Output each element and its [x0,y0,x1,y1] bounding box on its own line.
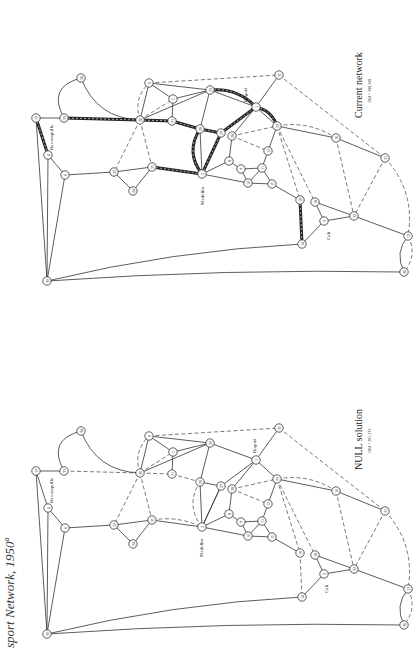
svg-text:34: 34 [79,76,84,80]
network-node-8: 8 [225,510,233,518]
svg-text:5: 5 [171,451,176,453]
network-node-10: 10 [244,179,252,187]
network-edge [114,120,140,172]
network-node-35: 35 [275,424,283,432]
svg-text:25: 25 [150,165,155,169]
network-edge [140,473,152,520]
svg-text:30: 30 [45,279,50,283]
network-node-3: 3 [320,217,328,225]
network-node-23: 23 [273,122,281,130]
network-node-4: 4 [44,151,52,159]
network-edge [202,133,221,174]
network-edge [200,90,210,129]
svg-text:4: 4 [46,507,51,509]
svg-text:1: 1 [254,459,259,461]
network-node-17: 17 [32,467,40,475]
svg-text:32: 32 [352,567,357,571]
network-node-11: 11 [258,517,266,525]
svg-text:19: 19 [298,198,303,202]
network-edge [221,460,256,486]
network-node-4: 4 [44,504,52,512]
network-node-25: 25 [148,516,156,524]
network-edge [114,473,140,525]
network-edge [36,471,47,634]
svg-text:23: 23 [275,124,280,128]
network-edge [272,537,300,553]
network-edge [140,473,172,474]
network-edge [81,78,140,120]
svg-text:15: 15 [270,535,275,539]
svg-text:7: 7 [239,168,244,170]
svg-text:24: 24 [131,189,136,193]
network-node-18: 18 [311,551,319,559]
svg-text:34: 34 [79,429,84,433]
svg-text:36: 36 [402,270,407,274]
svg-text:16: 16 [334,136,339,140]
svg-text:3: 3 [322,220,327,222]
objective-value: OBJ = 388,348 [367,79,373,103]
city-label-bogota: Bogotá [252,438,257,453]
network-node-28: 28 [228,485,236,493]
svg-text:4: 4 [46,154,51,156]
network-edge [336,491,385,511]
network-node-26: 26 [136,469,144,477]
network-node-32: 32 [350,565,358,573]
network-node-9: 9 [145,432,153,440]
svg-text:25: 25 [150,518,155,522]
network-node-24: 24 [129,187,137,195]
svg-text:17: 17 [34,116,39,120]
city-label-cali: Cali [326,231,331,240]
network-edge [302,221,324,244]
network-node-14: 14 [298,593,306,601]
network-edge [65,172,114,175]
network-edge [140,120,152,167]
network-node-16: 16 [332,134,340,142]
svg-text:18: 18 [313,200,318,204]
svg-text:17: 17 [34,469,39,473]
network-edge [272,184,300,200]
network-node-3: 3 [320,570,328,578]
network-node-18: 18 [311,198,319,206]
city-label-bogota: Bogotá [243,87,248,102]
network-node-9: 9 [145,79,153,87]
svg-text:20: 20 [208,441,213,445]
svg-text:28: 28 [230,487,235,491]
network-node-12: 12 [264,500,272,508]
svg-text:6: 6 [63,174,68,176]
svg-text:24: 24 [131,542,136,546]
network-edge [200,443,210,482]
network-edge [149,75,279,83]
network-diagram-current: 1746303334222425952126202927281287111015… [0,0,419,325]
svg-text:35: 35 [277,73,282,77]
svg-text:30: 30 [45,632,50,636]
svg-text:21: 21 [170,472,175,476]
network-edge [202,527,248,536]
network-node-36: 36 [400,621,408,629]
network-edge [47,271,404,281]
svg-text:26: 26 [138,118,143,122]
network-node-20: 20 [206,86,214,94]
network-node-36: 36 [400,268,408,276]
network-node-34: 34 [77,427,85,435]
svg-text:16: 16 [334,489,339,493]
network-node-19: 19 [296,549,304,557]
network-edge [114,520,152,525]
network-node-31: 31 [381,507,389,515]
svg-text:9: 9 [147,435,152,437]
network-edge [47,528,65,634]
network-node-21: 21 [168,470,176,478]
network-node-30: 30 [43,630,51,638]
network-node-29: 29 [196,125,204,133]
network-edge [81,431,140,473]
svg-text:11: 11 [260,519,265,523]
network-edge [336,138,354,216]
svg-text:33: 33 [62,116,67,120]
network-node-34: 34 [77,74,85,82]
svg-text:31: 31 [383,156,388,160]
svg-text:14: 14 [300,595,305,599]
network-edge [336,138,385,158]
svg-text:21: 21 [170,119,175,123]
network-node-11: 11 [258,164,266,172]
network-node-33: 33 [60,114,68,122]
panel-title: NULL solution [353,409,364,470]
